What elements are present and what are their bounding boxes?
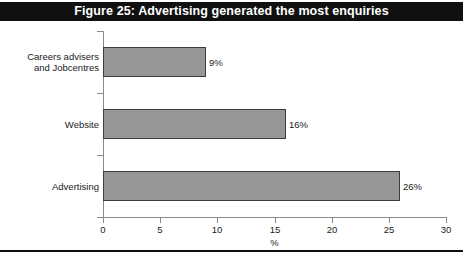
x-axis-tick-label-15: 15 <box>270 224 281 235</box>
x-axis-tick-label-25: 25 <box>384 224 395 235</box>
y-axis-label-advertising-line1: Advertising <box>52 181 99 192</box>
x-axis-tick <box>446 218 447 223</box>
bar-value-label-advertising: 26% <box>403 181 422 192</box>
y-axis-category-labels: Careers advisers and Jobcentres Website … <box>0 21 99 250</box>
x-axis-title: % <box>103 237 446 248</box>
x-axis-tick-label-10: 10 <box>212 224 223 235</box>
x-axis-tick-label-20: 20 <box>327 224 338 235</box>
x-axis-tick-label-30: 30 <box>441 224 452 235</box>
bottom-divider <box>0 250 463 252</box>
x-axis-tick-label-0: 0 <box>100 224 105 235</box>
x-axis-tick <box>275 218 276 223</box>
bar-careers-advisers-and-jobcentres <box>103 47 206 77</box>
y-axis-label-careers-line1: Careers advisers <box>27 51 99 62</box>
bar-chart: Careers advisers and Jobcentres Website … <box>0 21 463 250</box>
x-axis-tick <box>389 218 390 223</box>
x-axis-tick <box>332 218 333 223</box>
bar-advertising <box>103 171 400 201</box>
page-title: Figure 25: Advertising generated the mos… <box>74 2 388 21</box>
y-axis-label-careers-line2: and Jobcentres <box>34 62 99 73</box>
x-axis-tick <box>103 218 104 223</box>
figure-title-bar: Figure 25: Advertising generated the mos… <box>0 2 463 21</box>
x-axis-tick <box>217 218 218 223</box>
bar-value-label-careers: 9% <box>209 57 223 68</box>
bar-value-label-website: 16% <box>289 119 308 130</box>
x-axis-tick <box>160 218 161 223</box>
y-axis-label-advertising: Advertising <box>4 181 99 192</box>
bar-website <box>103 109 286 139</box>
y-axis-label-website: Website <box>4 119 99 130</box>
x-axis-tick-label-5: 5 <box>157 224 162 235</box>
y-axis-label-careers: Careers advisers and Jobcentres <box>4 51 99 73</box>
y-axis-label-website-line1: Website <box>65 119 99 130</box>
